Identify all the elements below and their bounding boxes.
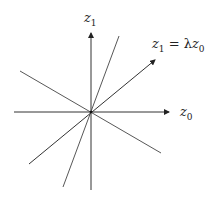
z0-base: z bbox=[180, 104, 187, 119]
z0-axis-label: z0 bbox=[180, 104, 193, 122]
lhs-base: z bbox=[152, 36, 159, 51]
rhs-base: z bbox=[192, 36, 199, 51]
diagram: z1 z0 z1 = λz0 bbox=[0, 0, 214, 201]
z0-sub: 0 bbox=[187, 112, 193, 122]
equals-lambda: = λ bbox=[165, 36, 192, 51]
z1-base: z bbox=[84, 10, 91, 25]
eigen-line-label: z1 = λz0 bbox=[152, 36, 205, 54]
z1-axis-label: z1 bbox=[84, 10, 97, 28]
rhs-sub: 0 bbox=[199, 44, 205, 54]
origin-dot bbox=[90, 111, 93, 114]
lines-through-origin bbox=[0, 0, 214, 201]
z1-sub: 1 bbox=[91, 18, 97, 28]
